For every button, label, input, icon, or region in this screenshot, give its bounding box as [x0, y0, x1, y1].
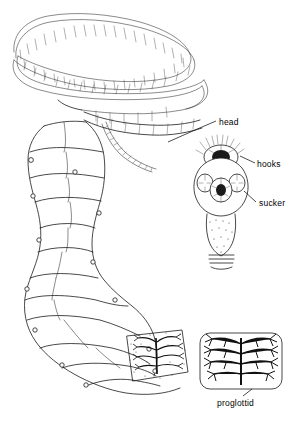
tapeworm-diagram [0, 0, 307, 429]
leader-hooks [240, 156, 255, 163]
leader-proglottid [243, 389, 252, 396]
figure-canvas: head hooks sucker proglottid [0, 0, 307, 429]
label-hooks: hooks [257, 159, 281, 169]
label-sucker: sucker [259, 198, 285, 208]
label-proglottid: proglottid [217, 398, 254, 408]
strobila-thin-upper [13, 14, 208, 172]
proglottid-inset-large [200, 333, 282, 389]
scolex-head [194, 135, 248, 269]
proglottid-inset-small [127, 330, 188, 381]
leader-head [168, 121, 216, 142]
label-head: head [219, 117, 239, 127]
